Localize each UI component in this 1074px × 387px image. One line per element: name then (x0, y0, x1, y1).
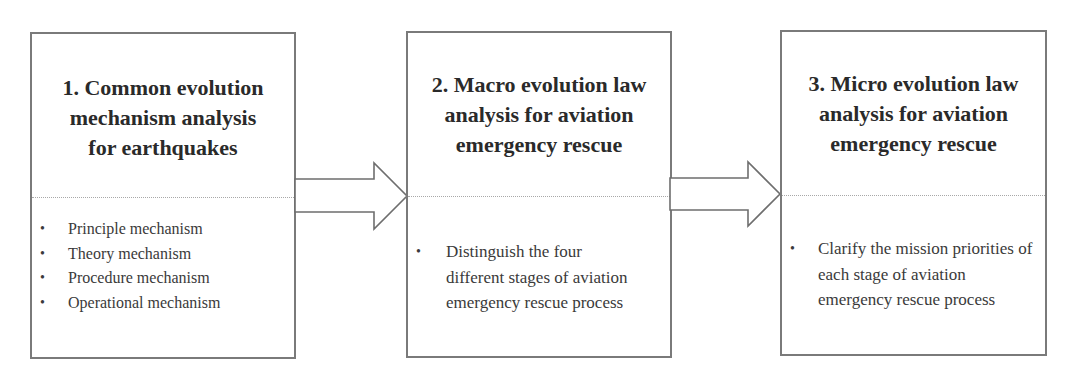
step-3-title: 3. Micro evolution law analysis for avia… (782, 32, 1045, 196)
step-1-box: 1. Common evolution mechanism analysis f… (30, 32, 296, 359)
bullet-icon: • (416, 239, 421, 265)
bullet-icon: • (40, 291, 45, 316)
step-3-divider (782, 195, 1045, 196)
step-2-title: 2. Macro evolution law analysis for avia… (408, 33, 670, 197)
step-2-bullet-list: • Distinguish the four different stages … (408, 239, 670, 316)
bullet-text: Clarify the mission priorities of each s… (818, 239, 1032, 309)
step-2-title-line: emergency rescue (432, 130, 647, 160)
step-2-box: 2. Macro evolution law analysis for avia… (406, 31, 672, 358)
bullet-icon: • (40, 242, 45, 267)
step-3-title-line: emergency rescue (809, 129, 1019, 159)
step-2-title-line: analysis for aviation (432, 100, 647, 130)
bullet-text: Procedure mechanism (68, 269, 210, 286)
bullet-icon: • (40, 266, 45, 291)
step-3-title-line: analysis for aviation (809, 99, 1019, 129)
step-1-divider (32, 197, 294, 198)
step-1-title-line: mechanism analysis (62, 103, 263, 133)
step-2-title-line: 2. Macro evolution law (432, 70, 647, 100)
step-1-bullet-list: • Principle mechanism • Theory mechanism… (32, 217, 294, 315)
bullet-icon: • (790, 236, 795, 262)
bullet-text: Principle mechanism (68, 220, 203, 237)
bullet-text: Distinguish the four different stages of… (446, 242, 627, 312)
step-1-title-line: 1. Common evolution (62, 73, 263, 103)
step-3-bullet-list: • Clarify the mission priorities of each… (782, 236, 1045, 313)
step-2-divider (408, 196, 670, 197)
block-arrow-right-icon (294, 160, 410, 232)
bullet-icon: • (40, 217, 45, 242)
step-1-title-line: for earthquakes (62, 133, 263, 163)
bullet-item: • Procedure mechanism (32, 266, 294, 291)
step-1-title: 1. Common evolution mechanism analysis f… (32, 34, 294, 198)
bullet-item: • Distinguish the four different stages … (408, 239, 670, 316)
step-3-box: 3. Micro evolution law analysis for avia… (780, 30, 1047, 356)
bullet-text: Operational mechanism (68, 294, 220, 311)
block-arrow-right-icon (669, 159, 785, 231)
step-3-title-line: 3. Micro evolution law (809, 69, 1019, 99)
bullet-item: • Operational mechanism (32, 291, 294, 316)
bullet-item: • Principle mechanism (32, 217, 294, 242)
bullet-text: Theory mechanism (68, 245, 191, 262)
bullet-item: • Theory mechanism (32, 242, 294, 267)
bullet-item: • Clarify the mission priorities of each… (782, 236, 1045, 313)
